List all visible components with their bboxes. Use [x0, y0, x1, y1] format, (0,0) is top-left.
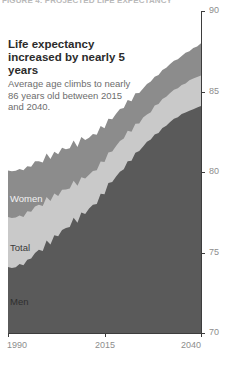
x-tick-mark — [8, 333, 9, 337]
series-label-women: Women — [10, 194, 43, 204]
x-tick-label: 2015 — [95, 341, 115, 350]
y-tick-label: 75 — [209, 248, 219, 257]
x-tick-label: 1990 — [7, 341, 27, 350]
y-tick-mark — [201, 253, 205, 254]
y-tick-mark — [201, 92, 205, 93]
plot-area — [0, 11, 202, 333]
y-tick-mark — [201, 11, 205, 12]
chart-figure: FIGURE 4: PROJECTED LIFE EXPECTANCY Life… — [0, 0, 229, 367]
series-label-men: Men — [10, 297, 28, 307]
x-tick-mark — [201, 333, 202, 337]
y-tick-label: 70 — [209, 328, 219, 337]
y-tick-label: 90 — [209, 6, 219, 15]
figure-kicker: FIGURE 4: PROJECTED LIFE EXPECTANCY — [2, 0, 182, 6]
y-tick-label: 80 — [209, 167, 219, 176]
series-label-total: Total — [10, 243, 30, 253]
x-tick-mark — [105, 333, 106, 337]
y-tick-mark — [201, 172, 205, 173]
y-tick-label: 85 — [209, 87, 219, 96]
x-tick-label: 2040 — [181, 341, 201, 350]
area-chart-svg — [0, 11, 202, 333]
